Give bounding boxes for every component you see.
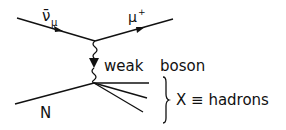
muon-label: μ — [128, 9, 137, 25]
hadron-line — [94, 83, 143, 112]
nucleon-line — [15, 83, 94, 104]
feynman-diagram: ν̄ μ μ + weak boson N X ≡ hadrons — [0, 0, 286, 130]
nucleon-label: N — [40, 104, 51, 122]
boson-label-boson: boson — [160, 57, 205, 75]
boson-arrow-icon — [89, 58, 99, 68]
hadron-line — [94, 83, 147, 98]
boson-label-weak: weak — [104, 57, 144, 75]
hadrons-label: X ≡ hadrons — [176, 91, 269, 109]
hadron-brace — [163, 77, 169, 123]
muon-arrow-icon — [136, 27, 145, 33]
antineutrino-subscript: μ — [51, 17, 58, 28]
muon-superscript: + — [138, 7, 146, 17]
antineutrino-label: ν̄ — [42, 7, 50, 25]
